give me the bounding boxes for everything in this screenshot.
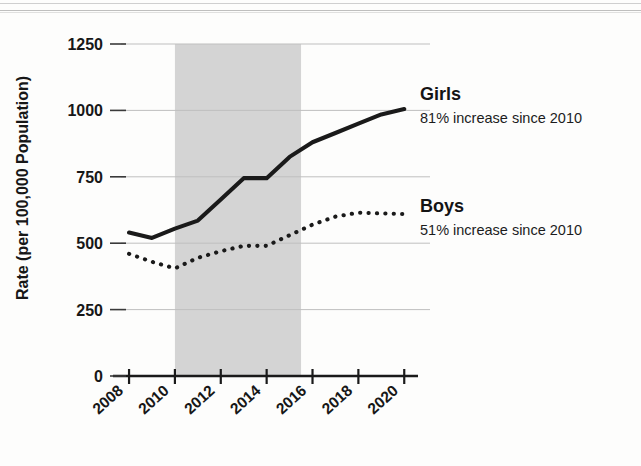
x-tick-label-2016: 2016 <box>273 381 310 417</box>
highlight-band <box>175 44 301 376</box>
x-tick-label-2018: 2018 <box>318 381 355 417</box>
y-tick-label-0: 0 <box>94 368 103 385</box>
legend-label-girls: Girls <box>420 84 461 104</box>
legend-label-boys: Boys <box>420 196 464 216</box>
y-tick-label-1250: 1250 <box>67 36 103 53</box>
x-tick-label-2020: 2020 <box>364 382 401 418</box>
y-tick-label-250: 250 <box>76 302 103 319</box>
line-chart: 025050075010001250 200820102012201420162… <box>0 0 641 466</box>
y-axis-title: Rate (per 100,000 Population) <box>14 76 31 300</box>
y-axis-tick-labels: 025050075010001250 <box>67 36 103 385</box>
y-tick-label-1000: 1000 <box>67 102 103 119</box>
x-tick-label-2010: 2010 <box>135 382 172 418</box>
figure-canvas: 025050075010001250 200820102012201420162… <box>0 0 641 466</box>
y-axis-tick-marks <box>110 44 126 376</box>
y-tick-label-500: 500 <box>76 235 103 252</box>
x-tick-label-2008: 2008 <box>89 381 126 417</box>
x-tick-label-2014: 2014 <box>227 381 264 417</box>
x-tick-label-2012: 2012 <box>181 382 218 418</box>
legend-note-girls: 81% increase since 2010 <box>420 110 582 126</box>
y-tick-label-750: 750 <box>76 169 103 186</box>
legend-note-boys: 51% increase since 2010 <box>420 222 582 238</box>
x-axis-tick-labels: 2008201020122014201620182020 <box>89 381 401 417</box>
